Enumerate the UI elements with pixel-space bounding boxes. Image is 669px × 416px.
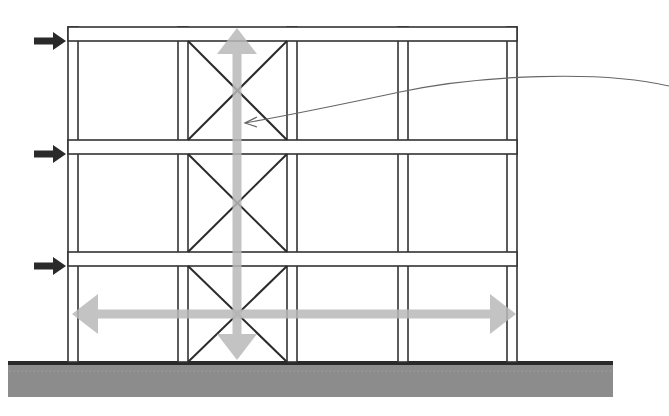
vertical-force-shaft (233, 54, 242, 334)
floor-2-load-arrow-icon (53, 145, 66, 163)
floor-2-beam (68, 140, 517, 154)
floor-1-load-arrow-icon (53, 257, 66, 275)
ground-surface-line (8, 361, 613, 365)
braced-frame-diagram (0, 0, 669, 416)
horizontal-force-shaft (98, 310, 490, 319)
roof-load-arrow-icon (53, 32, 66, 50)
ground-fill (8, 362, 613, 397)
floor-2-load-shaft (34, 151, 54, 158)
lateral-load-arrows (34, 32, 66, 275)
roof-load-shaft (34, 38, 54, 45)
leader-pointer (245, 76, 669, 127)
floor-1-beam (68, 252, 517, 266)
ground-slab (8, 361, 613, 397)
roof-beam (68, 27, 517, 41)
leader-line (245, 76, 669, 123)
vertical-force-down-arrowhead-icon (217, 334, 257, 360)
floor-1-load-shaft (34, 263, 54, 270)
